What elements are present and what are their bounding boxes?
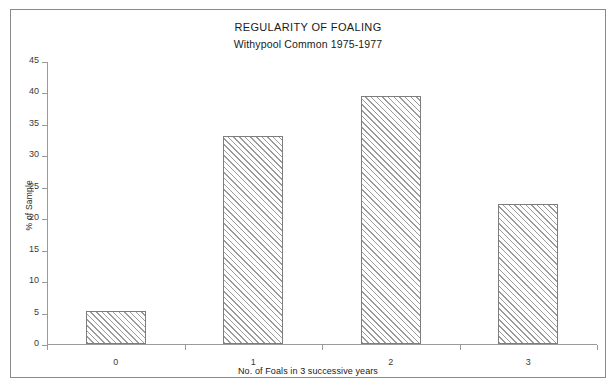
y-axis-tick-label: 35 — [29, 118, 39, 128]
x-axis-tick-mark — [47, 345, 48, 350]
y-axis-tick-label: 30 — [29, 149, 39, 159]
y-axis-tick-mark — [42, 62, 47, 63]
x-axis-title: No. of Foals in 3 successive years — [0, 366, 616, 376]
x-axis-tick-mark — [460, 345, 461, 350]
x-axis-tick-mark — [185, 345, 186, 350]
y-axis-tick-label: 5 — [34, 307, 39, 317]
y-axis-tick-label: 25 — [29, 181, 39, 191]
bar — [361, 96, 421, 344]
y-axis-tick-mark — [42, 314, 47, 315]
y-axis-tick-mark — [42, 156, 47, 157]
chart-subtitle: Withypool Common 1975-1977 — [11, 37, 605, 51]
y-axis-tick-label: 0 — [34, 338, 39, 348]
bar — [498, 204, 558, 344]
plot-area: 454035302520151050 0123 — [47, 62, 597, 345]
y-axis-tick-label: 45 — [29, 55, 39, 65]
y-axis-tick-mark — [42, 93, 47, 94]
chart-frame: REGULARITY OF FOALING Withypool Common 1… — [10, 9, 606, 378]
y-axis-tick-mark — [42, 188, 47, 189]
x-axis-tick-mark — [322, 345, 323, 350]
y-axis-tick-label: 15 — [29, 244, 39, 254]
bar — [86, 311, 146, 344]
y-axis-tick-mark — [42, 251, 47, 252]
y-axis-tick-label: 20 — [29, 212, 39, 222]
y-axis-tick-mark — [42, 219, 47, 220]
y-axis-tick-label: 10 — [29, 275, 39, 285]
title-block: REGULARITY OF FOALING Withypool Common 1… — [11, 20, 605, 51]
y-axis-tick-mark — [42, 125, 47, 126]
y-axis-line — [47, 62, 48, 345]
bar — [223, 136, 283, 344]
y-axis-tick-label: 40 — [29, 86, 39, 96]
x-axis-tick-mark — [597, 345, 598, 350]
chart-title: REGULARITY OF FOALING — [11, 20, 605, 34]
y-axis-tick-mark — [42, 282, 47, 283]
